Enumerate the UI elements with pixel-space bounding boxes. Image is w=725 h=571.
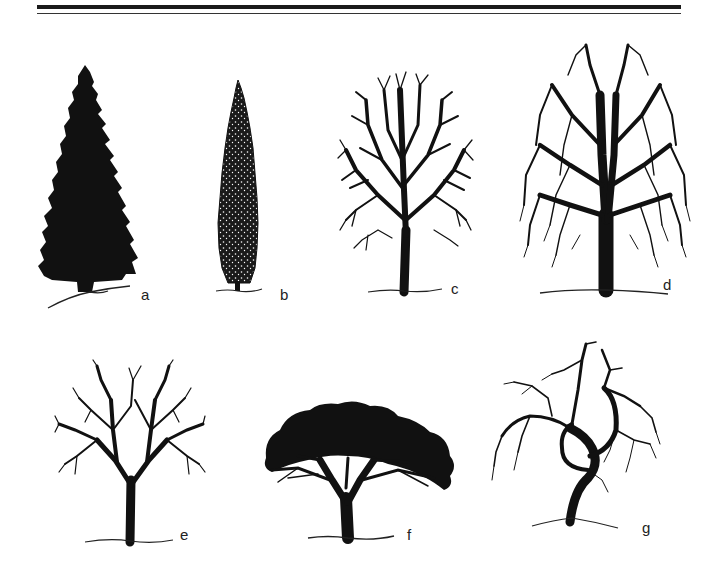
tree-label: b <box>280 287 288 302</box>
tree-label: c <box>451 281 459 296</box>
tree-label: f <box>407 527 411 542</box>
tree-c-ovoid-deciduous-illustration <box>338 70 473 296</box>
tree-e-rounded-deciduous-illustration <box>55 360 205 545</box>
tree-label: g <box>642 520 650 535</box>
tree-f-umbrella-crown-illustration <box>258 398 458 543</box>
tree-d-weeping-deciduous-illustration <box>520 35 690 297</box>
tree-g-curved-weeping-illustration <box>492 340 662 530</box>
tree-a-conifer-illustration <box>30 60 150 310</box>
header-rule-thick <box>37 5 681 9</box>
tree-label: d <box>663 277 671 292</box>
tree-label: a <box>141 287 149 302</box>
tree-label: e <box>180 527 188 542</box>
tree-b-columnar-illustration <box>210 78 270 296</box>
header-rule-thin <box>37 13 681 14</box>
